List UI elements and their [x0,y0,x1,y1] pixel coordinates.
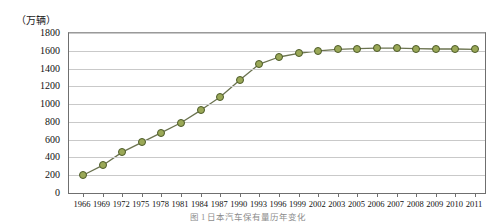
x-tick-label: 1996 [270,199,287,209]
figure-caption: 图 1 日本汽车保有量历年变化 [0,210,496,222]
x-tick-label: 2003 [328,199,345,209]
x-tick-label: 1981 [172,199,189,209]
x-axis-tick-labels: 1966196919721975197819811984198719901993… [0,0,496,224]
x-tick-label: 1978 [152,199,169,209]
x-tick-label: 2011 [466,199,483,209]
x-tick-label: 1972 [113,199,130,209]
x-tick-label: 2002 [309,199,326,209]
x-tick-label: 1966 [74,199,91,209]
x-tick-label: 1987 [211,199,228,209]
x-tick-label: 1969 [93,199,110,209]
x-tick-label: 1993 [250,199,267,209]
x-tick-label: 2008 [407,199,424,209]
x-tick-label: 1999 [289,199,306,209]
x-tick-label: 2009 [426,199,443,209]
x-tick-label: 1975 [132,199,149,209]
chart-container: （万辆） 020040060080010001200140016001800 1… [0,0,496,224]
x-tick-label: 2005 [348,199,365,209]
x-tick-label: 1984 [191,199,208,209]
x-tick-label: 1990 [230,199,247,209]
x-tick-label: 2010 [446,199,463,209]
x-tick-label: 2007 [387,199,404,209]
x-tick-label: 2006 [368,199,385,209]
